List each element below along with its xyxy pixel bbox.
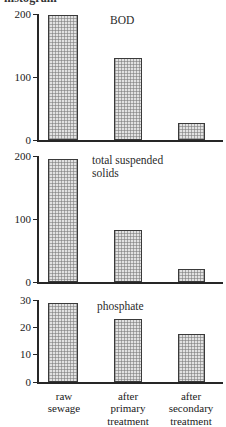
category-label-after-primary-line3: treatment [107, 415, 149, 427]
bar-tss-after-primary[interactable] [114, 230, 142, 282]
y-tick-bod-100 [33, 77, 38, 78]
y-tick-label-tss-100: 100 [0, 214, 31, 225]
panel-annotation-bod: BOD [110, 14, 134, 27]
y-axis-line-tss [37, 156, 39, 284]
y-tick-label-bod-0: 0 [0, 135, 31, 146]
panel-annotation-tss: total suspendedsolids [92, 154, 163, 180]
bar-phosphate-after-secondary[interactable] [178, 334, 205, 382]
category-label-after-secondary-line2: secondary [169, 402, 214, 414]
plot-area-tss: 200 100 0 total suspendedsolids [0, 152, 226, 288]
category-label-after-primary-line2: primary [111, 402, 146, 414]
x-axis-line-bod [37, 140, 223, 142]
category-label-raw-sewage-line1: raw [56, 390, 73, 402]
y-tick-label-tss-0: 0 [0, 277, 31, 288]
x-axis-line-phosphate [37, 382, 223, 384]
plot-area-phosphate: 30 20 10 0 phosphate [0, 296, 226, 390]
y-tick-label-phosphate-20: 20 [0, 322, 31, 333]
panel-annotation-phosphate: phosphate [97, 300, 144, 313]
y-tick-tss-0 [33, 282, 38, 283]
category-label-raw-sewage-line2: sewage [48, 402, 80, 414]
y-tick-bod-200 [33, 14, 38, 15]
category-label-after-secondary-line3: treatment [170, 415, 212, 427]
y-tick-label-phosphate-30: 30 [0, 295, 31, 306]
y-axis-line-phosphate [37, 300, 39, 384]
y-tick-label-phosphate-10: 10 [0, 349, 31, 360]
panel-annotation-tss-line1: total suspended [92, 154, 163, 166]
y-tick-phosphate-20 [33, 327, 38, 328]
category-label-after-primary: afterprimarytreatment [97, 390, 159, 427]
y-tick-phosphate-0 [33, 382, 38, 383]
bar-bod-after-primary[interactable] [114, 58, 142, 140]
bar-tss-after-secondary[interactable] [178, 269, 205, 282]
plot-area-bod: 200 100 0 BOD [0, 10, 226, 146]
y-tick-label-bod-200: 200 [0, 9, 31, 20]
bar-tss-raw-sewage[interactable] [48, 159, 78, 283]
category-axis-labels: rawsewage afterprimarytreatment aftersec… [0, 390, 226, 424]
bar-phosphate-after-primary[interactable] [114, 319, 142, 382]
category-label-raw-sewage: rawsewage [38, 390, 90, 415]
y-tick-label-bod-100: 100 [0, 72, 31, 83]
y-tick-phosphate-10 [33, 354, 38, 355]
category-label-after-primary-line1: after [118, 390, 138, 402]
y-axis-line-bod [37, 14, 39, 142]
y-tick-bod-0 [33, 140, 38, 141]
y-tick-tss-100 [33, 219, 38, 220]
bar-bod-raw-sewage[interactable] [48, 15, 78, 140]
chart-panel-phosphate: 30 20 10 0 phosphate [0, 296, 226, 390]
category-label-after-secondary: aftersecondarytreatment [159, 390, 223, 427]
chart-panel-bod: 200 100 0 BOD [0, 10, 226, 146]
y-tick-label-tss-200: 200 [0, 151, 31, 162]
bar-phosphate-raw-sewage[interactable] [48, 303, 78, 382]
bar-bod-after-secondary[interactable] [178, 123, 205, 140]
x-axis-line-tss [37, 282, 223, 284]
y-tick-label-phosphate-0: 0 [0, 377, 31, 388]
y-tick-phosphate-30 [33, 300, 38, 301]
panel-annotation-tss-line2: solids [92, 167, 119, 179]
clipped-caption: histogram [4, 0, 57, 6]
y-tick-tss-200 [33, 156, 38, 157]
chart-panel-total-suspended-solids: 200 100 0 total suspendedsolids [0, 152, 226, 288]
category-label-after-secondary-line1: after [181, 390, 201, 402]
